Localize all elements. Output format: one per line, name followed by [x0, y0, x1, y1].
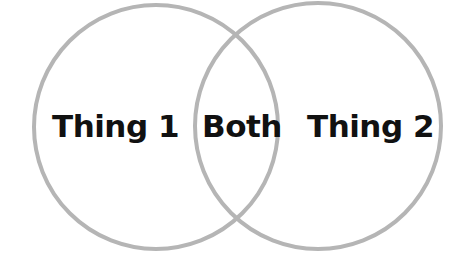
venn-diagram: Thing 1 Both Thing 2	[0, 0, 463, 254]
set-label-thing-1: Thing 1	[52, 108, 179, 144]
set-label-thing-2: Thing 2	[307, 108, 434, 144]
intersection-label: Both	[202, 108, 282, 144]
